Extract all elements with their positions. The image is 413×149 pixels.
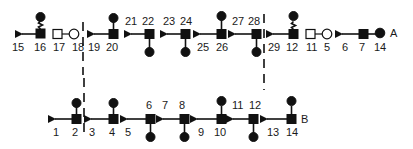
unit-22: 21 22 (125, 15, 154, 57)
label-14b: 14 (286, 126, 298, 138)
label-6: 6 (342, 41, 348, 53)
label-11: 11 (306, 41, 317, 53)
label-5b: 5 (125, 126, 131, 138)
label-12: 12 (286, 41, 298, 53)
unit-16: 15 16 (12, 13, 46, 54)
open-circle-icon (322, 29, 332, 39)
label-16: 16 (34, 41, 46, 53)
filled-square-icon (359, 30, 368, 39)
label-11b: 11 (232, 99, 243, 111)
filled-square-icon (109, 30, 118, 39)
label-26: 26 (216, 41, 228, 53)
label-25: 25 (197, 41, 209, 53)
unit-28: 27 28 (232, 15, 261, 57)
filled-circle-icon (217, 97, 226, 106)
label-10b: 10 (214, 126, 226, 138)
label-17: 17 (53, 41, 65, 53)
filled-square-icon (287, 115, 296, 124)
filled-square-icon (145, 30, 154, 39)
label-22: 22 (142, 15, 154, 27)
label-6b: 6 (146, 99, 152, 111)
filled-circle-icon (252, 48, 261, 57)
label-29: 29 (268, 41, 280, 53)
unit-12-top: 29 12 (268, 12, 298, 54)
unit-24: 23 24 (163, 15, 192, 57)
open-square-icon (53, 30, 62, 39)
filled-circle-icon (145, 48, 154, 57)
unit-4: 3 4 (89, 99, 118, 139)
unit-20: 19 20 (88, 14, 118, 54)
filled-circle-icon (109, 99, 118, 108)
label-20: 20 (106, 41, 118, 53)
label-13b: 13 (267, 126, 279, 138)
unit-8: 7 8 (162, 99, 189, 142)
filled-square-icon (217, 115, 226, 124)
label-1: 1 (53, 126, 59, 138)
unit-6: 5 6 (125, 99, 155, 142)
filled-square-icon (249, 115, 258, 124)
unit-2: 1 2 (53, 99, 81, 139)
filled-square-icon (146, 115, 155, 124)
label-8b: 8 (179, 99, 185, 111)
label-23: 23 (163, 15, 175, 27)
filled-square-icon (252, 30, 261, 39)
filled-circle-icon (146, 133, 155, 142)
filled-circle-icon (72, 99, 81, 108)
label-19: 19 (88, 41, 100, 53)
label-4: 4 (109, 126, 115, 138)
filled-circle-icon (180, 133, 189, 142)
open-pair-17-18: 17 18 (53, 29, 84, 53)
wavy-stem-icon (39, 21, 43, 29)
label-12b: 12 (249, 99, 261, 111)
filled-circle-icon (181, 48, 190, 57)
row-a: 15 16 17 18 19 20 21 2 (12, 12, 398, 91)
open-square-icon (306, 30, 315, 39)
label-24: 24 (180, 15, 192, 27)
label-7: 7 (359, 41, 365, 53)
gene-map-diagram: 15 16 17 18 19 20 21 2 (0, 0, 413, 149)
row-a-end-label: A (390, 27, 398, 39)
open-pair-11-5: 11 5 (306, 29, 332, 53)
unit-12-bottom: 11 12 (232, 99, 261, 142)
filled-circle-icon (289, 12, 298, 21)
label-5: 5 (324, 41, 330, 53)
label-3: 3 (89, 126, 95, 138)
open-circle-icon (69, 29, 79, 39)
label-28: 28 (248, 15, 260, 27)
label-14: 14 (374, 41, 386, 53)
filled-circle-icon (217, 12, 226, 21)
filled-circle-icon (36, 13, 45, 22)
wavy-stem-icon (292, 22, 296, 30)
unit-26: 25 26 (197, 12, 228, 54)
unit-10: 9 10 (197, 97, 226, 139)
filled-square-icon (289, 30, 298, 39)
filled-square-icon (217, 30, 226, 39)
filled-square-icon (36, 29, 45, 38)
filled-square-icon (109, 115, 118, 124)
filled-circle-icon (287, 97, 296, 106)
filled-square-icon (72, 115, 81, 124)
label-2: 2 (72, 126, 78, 138)
label-7b: 7 (162, 99, 168, 111)
unit-14: 13 14 B (267, 97, 308, 139)
row-b-end-label: B (301, 113, 308, 125)
row-b: 1 2 3 4 5 6 7 8 (53, 78, 308, 142)
filled-circle-icon (109, 14, 118, 23)
filled-square-icon (181, 30, 190, 39)
filled-circle-icon (249, 133, 258, 142)
unit-7-14: 6 7 14 A (342, 27, 398, 53)
filled-circle-icon (375, 28, 385, 38)
label-27: 27 (232, 15, 244, 27)
label-15: 15 (12, 41, 24, 53)
label-21: 21 (125, 15, 137, 27)
filled-square-icon (180, 115, 189, 124)
label-9b: 9 (198, 126, 204, 138)
